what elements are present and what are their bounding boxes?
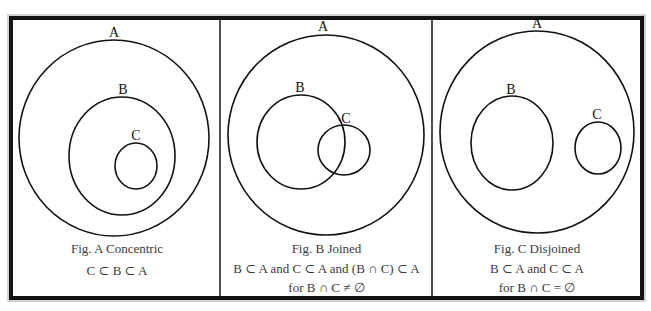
outer-frame xyxy=(11,18,642,298)
set-b-label: B xyxy=(506,82,515,97)
set-c-circle xyxy=(115,143,157,189)
set-c-circle xyxy=(575,122,621,174)
set-c-label: C xyxy=(592,107,601,122)
set-b-circle xyxy=(69,97,175,215)
set-a-label: A xyxy=(109,25,120,40)
panel-c-title: Fig. C Disjoined xyxy=(433,242,641,255)
set-a-circle xyxy=(440,31,634,233)
venn-diagram-figure: A B C A B C A B C Fig. A Concentric C ⊂ … xyxy=(0,0,651,311)
set-a-label: A xyxy=(318,19,329,34)
panel-c-condition: for B ∩ C = ∅ xyxy=(433,281,641,294)
panel-b-relation: B ⊂ A and C ⊂ A and (B ∩ C) ⊂ A xyxy=(221,262,432,275)
panel-c-relation: B ⊂ A and C ⊂ A xyxy=(433,262,641,275)
panel-c-diagram: A B C xyxy=(440,16,634,233)
panel-b-title: Fig. B Joined xyxy=(221,242,432,255)
set-b-label: B xyxy=(118,82,127,97)
set-a-circle xyxy=(19,40,209,236)
set-b-label: B xyxy=(295,80,304,95)
set-c-label: C xyxy=(341,111,350,126)
panel-a-relation: C ⊂ B ⊂ A xyxy=(14,264,220,277)
panel-a-diagram: A B C xyxy=(19,25,209,236)
set-a-label: A xyxy=(532,16,543,31)
panel-a-title: Fig. A Concentric xyxy=(14,242,220,255)
set-b-circle xyxy=(471,96,553,190)
set-b-circle xyxy=(257,95,345,189)
frame-highlight xyxy=(8,15,645,301)
set-c-label: C xyxy=(131,128,140,143)
panel-b-diagram: A B C xyxy=(228,19,424,235)
panel-b-condition: for B ∩ C ≠ ∅ xyxy=(221,281,432,294)
